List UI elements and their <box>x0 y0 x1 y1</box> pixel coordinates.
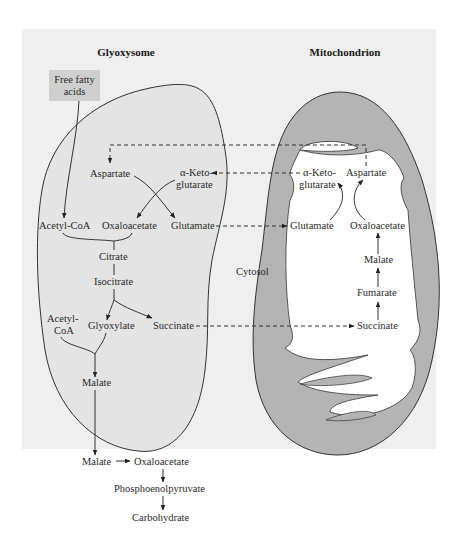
mito-akg-line1: α-Keto- <box>303 167 336 178</box>
glyoxysome-citrate: Citrate <box>99 251 128 262</box>
mito-malate: Malate <box>364 254 393 265</box>
glyoxysome-isocitrate: Isocitrate <box>94 276 133 287</box>
free-fatty-acids-line1: Free fatty <box>54 74 95 85</box>
mito-fumarate: Fumarate <box>357 287 397 298</box>
mito-glutamate: Glutamate <box>290 220 334 231</box>
cytosol-carbohydrate: Carbohydrate <box>132 512 189 523</box>
cytosol-oxaloacetate: Oxaloacetate <box>134 456 189 467</box>
glyoxysome-title: Glyoxysome <box>97 46 155 58</box>
glyoxysome-akg-line1: α-Keto- <box>180 167 213 178</box>
glyoxylate-cycle-diagram: Glyoxysome Mitochondrion Cytosol Free fa… <box>0 0 473 538</box>
mito-succinate: Succinate <box>357 320 398 331</box>
glyoxysome-glutamate: Glutamate <box>171 220 215 231</box>
glyoxysome-glyoxylate: Glyoxylate <box>88 320 135 331</box>
glyoxysome-acetyl-coa2-line2: CoA <box>54 325 74 336</box>
glyoxysome-akg-line2: glutarate <box>176 179 213 190</box>
cytosol-pep: Phosphoenolpyruvate <box>114 483 205 494</box>
glyoxysome-oxaloacetate: Oxaloacetate <box>102 220 157 231</box>
free-fatty-acids-line2: acids <box>64 86 86 97</box>
mitochondrion-title: Mitochondrion <box>310 46 381 58</box>
cytosol-label: Cytosol <box>236 266 269 277</box>
glyoxysome-malate: Malate <box>82 377 111 388</box>
mito-aspartate: Aspartate <box>346 167 387 178</box>
cytosol-malate: Malate <box>82 456 111 467</box>
glyoxysome-aspartate: Aspartate <box>90 168 131 179</box>
glyoxysome-acetyl-coa2-line1: Acetyl- <box>47 313 79 324</box>
glyoxysome-membrane <box>37 84 227 451</box>
mito-akg-line2: glutarate <box>299 179 336 190</box>
glyoxysome-succinate: Succinate <box>153 320 194 331</box>
mito-oxaloacetate: Oxaloacetate <box>350 220 405 231</box>
diagram-stage: Glyoxysome Mitochondrion Cytosol Free fa… <box>0 0 473 538</box>
glyoxysome-acetyl-coa: Acetyl-CoA <box>39 220 91 231</box>
